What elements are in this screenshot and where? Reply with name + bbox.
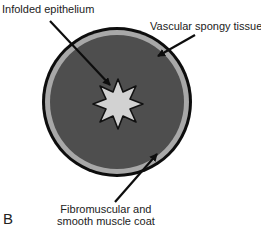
label-fibromuscular-line2: smooth muscle coat [57, 215, 155, 227]
label-fibromuscular-coat: Fibromuscular and smooth muscle coat [57, 203, 155, 227]
label-vascular-spongy-tissue: Vascular spongy tissue [150, 20, 261, 32]
label-infolded-epithelium: Infolded epithelium [2, 3, 94, 15]
panel-letter: B [3, 211, 13, 227]
infolded-epithelium-star [93, 79, 143, 129]
label-fibromuscular-line1: Fibromuscular and [57, 203, 155, 215]
cross-section-diagram [0, 0, 261, 229]
